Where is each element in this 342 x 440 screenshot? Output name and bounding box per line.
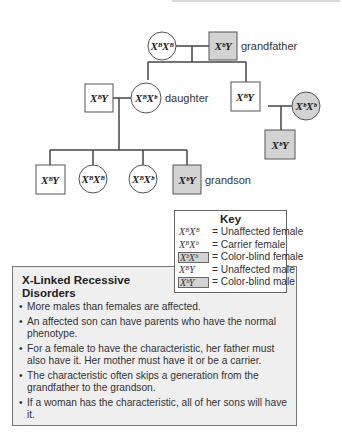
key-symbol: XᴮXᴮ <box>178 226 209 239</box>
grandfather-node: XᵇY <box>209 32 237 60</box>
grandchild-male-node: XᴮY <box>36 165 65 194</box>
svg-text:XᴮXᴮ: XᴮXᴮ <box>81 173 106 185</box>
key-symbol: XᴮY <box>178 264 209 277</box>
daughter-husband-node: XᴮY <box>85 84 113 112</box>
son-wife-node: XᵇXᵇ <box>292 92 320 120</box>
svg-text:XᵇY: XᵇY <box>270 139 290 151</box>
info-bullet: An affected son can have parents who hav… <box>17 316 292 341</box>
info-bullet: If a woman has the characteristic, all o… <box>17 397 292 422</box>
grandmother-node: XᴮXᴮ <box>148 32 176 60</box>
svg-text:XᵇXᵇ: XᵇXᵇ <box>294 100 317 112</box>
key-symbol-shaded: XᵇXᵇ <box>178 252 209 263</box>
info-bullet-list: More males than females are affected. An… <box>17 301 292 424</box>
key-row-unaffected-female: XᴮXᴮ = Unaffected female <box>175 226 286 239</box>
svg-text:XᴮY: XᴮY <box>89 92 109 104</box>
key-title: Key <box>175 213 286 226</box>
legend-key: Key XᴮXᴮ = Unaffected female XᴮXᵇ = Carr… <box>174 210 287 293</box>
grandfather-label: grandfather <box>241 40 298 52</box>
svg-text:XᵇY: XᵇY <box>213 40 233 52</box>
key-symbol: XᴮXᵇ <box>178 239 209 252</box>
grandchild-carrier-node: XᴮXᵇ <box>129 165 157 193</box>
grandson-node: XᵇY <box>173 165 201 194</box>
key-row-carrier-female: XᴮXᵇ = Carrier female <box>175 239 286 252</box>
key-meaning: Color-blind male <box>221 276 295 287</box>
key-meaning: Color-blind female <box>221 251 304 262</box>
key-symbol-shaded: XᵇY <box>178 277 209 288</box>
grandson-label: grandson <box>205 174 251 186</box>
info-bullet: For a female to have the characteristic,… <box>17 343 292 368</box>
svg-text:XᴮY: XᴮY <box>40 174 60 186</box>
daughter-node: XᴮXᵇ <box>131 83 161 113</box>
key-row-unaffected-male: XᴮY = Unaffected male <box>175 264 286 277</box>
info-box-title: X-Linked Recessive Disorders <box>22 274 162 300</box>
svg-text:XᵇY: XᵇY <box>177 174 197 186</box>
key-row-colorblind-male: XᵇY = Color-blind male <box>175 276 286 289</box>
svg-text:XᴮXᵇ: XᴮXᵇ <box>134 92 158 104</box>
key-row-colorblind-female: XᵇXᵇ = Color-blind female <box>175 251 286 264</box>
key-meaning: Unaffected male <box>221 264 295 275</box>
svg-text:XᴮY: XᴮY <box>235 91 255 103</box>
key-meaning: Unaffected female <box>221 226 304 237</box>
svg-text:XᴮXᵇ: XᴮXᵇ <box>131 173 155 185</box>
info-bullet: The characteristic often skips a generat… <box>17 370 292 395</box>
daughter-label: daughter <box>165 92 209 104</box>
pedigree-chart: XᴮXᴮ XᵇY grandfather XᴮY XᴮXᵇ daughter X… <box>0 0 342 210</box>
son-node: XᴮY <box>231 82 260 111</box>
info-bullet: More males than females are affected. <box>17 301 292 314</box>
grandchild-female-node: XᴮXᴮ <box>79 165 107 193</box>
son-child-node: XᵇY <box>265 130 295 159</box>
key-meaning: Carrier female <box>221 239 286 250</box>
svg-text:XᴮXᴮ: XᴮXᴮ <box>150 40 175 52</box>
